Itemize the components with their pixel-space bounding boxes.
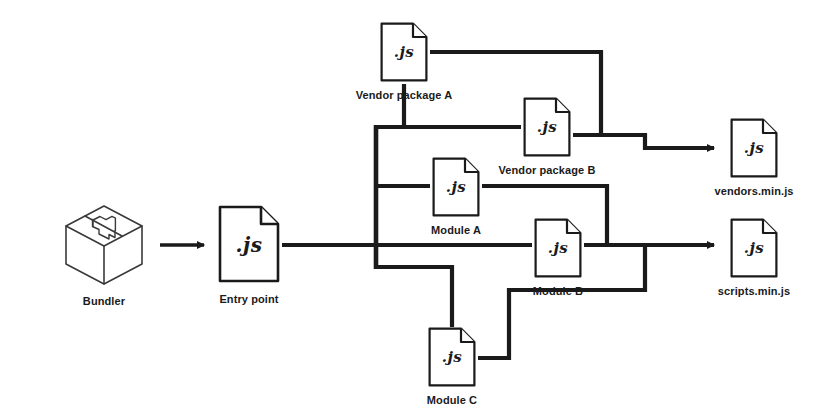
node-module-b-extension: .js bbox=[534, 239, 582, 257]
node-vendors-bundle-caption: vendors.min.js bbox=[714, 185, 793, 197]
node-vendors-bundle[interactable]: .js vendors.min.js bbox=[730, 118, 778, 178]
node-bundler-caption: Bundler bbox=[83, 295, 125, 307]
edge-vendor-a-to-vendors-bundle bbox=[430, 52, 601, 135]
node-entry-point-extension: .js bbox=[218, 233, 280, 257]
node-module-c-extension: .js bbox=[428, 348, 476, 366]
node-vendor-package-b-caption: Vendor package B bbox=[499, 164, 596, 176]
edge-trunk-to-module-c bbox=[376, 267, 452, 327]
node-module-a[interactable]: .js Module A bbox=[432, 157, 480, 217]
node-module-b-caption: Module B bbox=[533, 285, 583, 297]
node-bundler[interactable]: Bundler bbox=[62, 203, 146, 287]
node-vendor-package-b-extension: .js bbox=[523, 118, 571, 136]
edge-vendor-b-to-vendors-bundle bbox=[573, 135, 714, 148]
node-module-c-caption: Module C bbox=[427, 394, 477, 406]
node-entry-point-caption: Entry point bbox=[219, 293, 278, 305]
node-module-b[interactable]: .js Module B bbox=[534, 218, 582, 278]
node-module-a-caption: Module A bbox=[431, 224, 481, 236]
node-entry-point[interactable]: .js Entry point bbox=[218, 205, 280, 283]
node-module-c[interactable]: .js Module C bbox=[428, 327, 476, 387]
node-scripts-bundle-caption: scripts.min.js bbox=[718, 285, 790, 297]
node-vendor-package-a-caption: Vendor package A bbox=[356, 89, 453, 101]
cube-box-icon bbox=[62, 203, 146, 287]
node-vendor-package-a-extension: .js bbox=[380, 43, 428, 61]
node-vendor-package-a[interactable]: .js Vendor package A bbox=[380, 22, 428, 82]
node-vendors-bundle-extension: .js bbox=[730, 139, 778, 157]
node-scripts-bundle[interactable]: .js scripts.min.js bbox=[730, 218, 778, 278]
diagram-canvas: Bundler .js Entry point .js Vendor packa… bbox=[0, 0, 822, 416]
node-scripts-bundle-extension: .js bbox=[730, 239, 778, 257]
node-module-a-extension: .js bbox=[432, 178, 480, 196]
node-vendor-package-b[interactable]: .js Vendor package B bbox=[523, 97, 571, 157]
